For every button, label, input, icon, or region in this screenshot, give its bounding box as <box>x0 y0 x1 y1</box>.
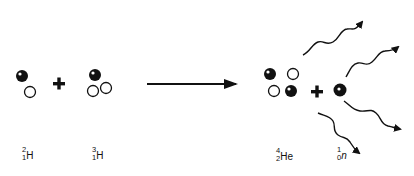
neutron-icon <box>269 86 280 97</box>
energy-ray-icon <box>344 101 400 129</box>
deuterium-label: 21H <box>22 146 33 162</box>
helium-label: 42He <box>276 147 293 163</box>
element-symbol: H <box>96 151 103 161</box>
element-symbol: H <box>26 151 33 161</box>
deuterium-nucleus <box>16 70 36 98</box>
energy-ray-icon <box>303 22 362 55</box>
free-neutron-icon <box>334 84 347 97</box>
tritium-nucleus <box>88 69 112 97</box>
element-symbol: He <box>280 152 293 162</box>
energy-ray-icon <box>346 47 398 77</box>
neutron-icon <box>288 69 299 80</box>
neutron-icon <box>25 87 36 98</box>
fusion-diagram <box>0 0 414 176</box>
proton-icon <box>16 70 28 82</box>
helium-nucleus <box>264 68 299 97</box>
proton-icon <box>264 68 276 80</box>
proton-icon <box>285 85 297 97</box>
neutron-label: 10n <box>337 146 347 162</box>
neutron-icon <box>101 83 112 94</box>
plus-icon <box>311 86 323 98</box>
element-symbol: n <box>341 151 347 161</box>
plus-icon <box>53 78 65 90</box>
neutron-icon <box>88 86 99 97</box>
tritium-label: 31H <box>92 146 103 162</box>
proton-icon <box>89 69 101 81</box>
